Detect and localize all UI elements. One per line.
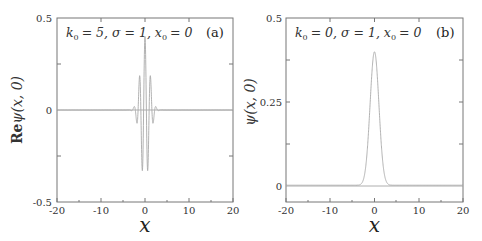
annotation-a: k0= 5, σ = 1, x0= 0: [66, 25, 192, 42]
annotation-b: k0= 0, σ = 1, x0= 0: [295, 25, 421, 42]
x-tick-label: -10: [93, 205, 109, 216]
gaussian-curve-b: [286, 52, 463, 185]
x-tick-label: 10: [183, 205, 196, 216]
wavepacket-curve-a: [57, 37, 233, 171]
x-tick-label: -20: [278, 205, 294, 216]
y-label-psi: ψ(x, 0): [242, 78, 258, 126]
y-label-psi: ψ(x, 0): [9, 76, 25, 124]
x-tick-label: -20: [49, 205, 65, 216]
x-tick-label: 20: [227, 205, 240, 216]
x-ticks-b: [286, 18, 463, 202]
y-tick-label: 0.25: [260, 97, 282, 108]
figure: 0.5 0 -0.5 -20 -10 0 10 20 x Reψ(x, 0) k…: [0, 0, 482, 241]
y-tick-label: 0: [46, 105, 52, 116]
x-tick-label: 20: [457, 205, 470, 216]
x-axis-label: x: [369, 213, 380, 237]
y-axis-label-b: ψ(x, 0): [242, 78, 258, 126]
panel-tag-a: (a): [206, 25, 224, 40]
y-axis-label-a: Reψ(x, 0): [9, 76, 25, 144]
x-tick-label: -10: [322, 205, 338, 216]
plot-frame-b: [286, 18, 463, 202]
x-axis-label: x: [139, 213, 150, 237]
panel-a: 0.5 0 -0.5 -20 -10 0 10 20 x Reψ(x, 0) k…: [9, 13, 239, 237]
y-tick-label: 0.5: [36, 13, 52, 24]
y-tick-label: 0.5: [266, 13, 282, 24]
x-tick-label: 10: [413, 205, 426, 216]
y-tick-label: 0: [276, 181, 282, 192]
svg-text:Reψ(x, 0): Reψ(x, 0): [9, 76, 25, 144]
panel-b: 0.5 0.25 0 -20 -10 0 10 20 x ψ(x, 0) k0=…: [242, 13, 469, 237]
panel-tag-b: (b): [436, 25, 454, 40]
y-label-re: Re: [9, 123, 25, 144]
